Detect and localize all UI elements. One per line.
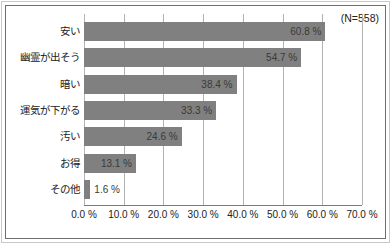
tick-label: 20.0 % [148, 208, 179, 222]
tick-label: 70.0 % [346, 208, 377, 222]
bar-row: 60.8 % [84, 22, 362, 41]
category-label: その他 [2, 180, 80, 199]
bar-value-label: 24.6 % [147, 129, 178, 144]
category-label: 運気が下がる [2, 101, 80, 120]
tick-label: 50.0 % [267, 208, 298, 222]
category-label: お得 [2, 154, 80, 173]
bar-value-label: 38.4 % [201, 77, 232, 92]
bar-row: 24.6 % [84, 127, 362, 146]
plot-area: 60.8 %54.7 %38.4 %33.3 %24.6 %13.1 %1.6 … [84, 14, 362, 205]
value-axis-tick-labels: 0.0 %10.0 %20.0 %30.0 %40.0 %50.0 %60.0 … [0, 208, 391, 228]
tick-label: 0.0 % [71, 208, 97, 222]
bar [84, 180, 90, 199]
bar-row: 54.7 % [84, 48, 362, 67]
category-label: 安い [2, 22, 80, 41]
tick-label: 30.0 % [188, 208, 219, 222]
gridline [362, 14, 363, 205]
bar-value-label: 13.1 % [101, 156, 132, 171]
bar-row: 33.3 % [84, 101, 362, 120]
category-axis-line [84, 205, 362, 206]
tick-label: 40.0 % [227, 208, 258, 222]
bar-value-label: 33.3 % [181, 103, 212, 118]
bar-value-label: 54.7 % [266, 50, 297, 65]
category-label: 汚い [2, 127, 80, 146]
bar-value-label: 1.6 % [94, 182, 120, 197]
category-label: 幽霊が出そう [2, 48, 80, 67]
bar-value-label: 60.8 % [290, 24, 321, 39]
bar-row: 13.1 % [84, 154, 362, 173]
bar-chart-figure: (N=558) 安い幽霊が出そう暗い運気が下がる汚いお得その他 60.8 %54… [0, 0, 391, 244]
bar-row: 1.6 % [84, 180, 362, 199]
bar [84, 22, 325, 41]
bar-row: 38.4 % [84, 75, 362, 94]
tick-label: 60.0 % [307, 208, 338, 222]
category-axis-labels: 安い幽霊が出そう暗い運気が下がる汚いお得その他 [0, 14, 80, 205]
tick-label: 10.0 % [108, 208, 139, 222]
category-label: 暗い [2, 75, 80, 94]
